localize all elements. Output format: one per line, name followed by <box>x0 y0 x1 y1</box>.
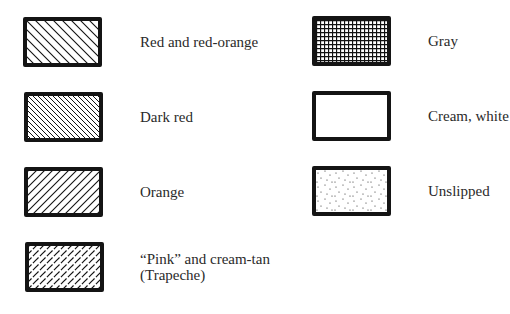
blank-swatch-icon <box>312 91 391 141</box>
legend-label: “Pink” and cream-tan (Trapeche) <box>140 251 270 283</box>
legend-item-orange: Orange <box>24 167 184 217</box>
legend-label: Cream, white <box>428 108 509 124</box>
legend-item-gray: Gray <box>312 16 458 66</box>
stipple-swatch-icon <box>312 166 391 216</box>
dark-red-hatch-swatch-icon <box>24 92 103 142</box>
legend-item-unslipped: Unslipped <box>312 166 490 216</box>
legend-item-dark-red: Dark red <box>24 92 193 142</box>
pink-dashed-hatch-swatch-icon <box>25 242 104 292</box>
red-hatch-swatch-icon <box>23 17 102 67</box>
legend-item-pink: “Pink” and cream-tan (Trapeche) <box>25 242 270 292</box>
legend-label: Red and red-orange <box>140 34 258 50</box>
legend-label: Unslipped <box>428 183 490 199</box>
legend-label-line2: (Trapeche) <box>140 267 270 283</box>
orange-hatch-swatch-icon <box>24 167 103 217</box>
legend-label: Orange <box>140 184 184 200</box>
legend-item-cream: Cream, white <box>312 91 509 141</box>
legend-label: Dark red <box>140 109 193 125</box>
legend-item-red: Red and red-orange <box>23 17 258 67</box>
gray-grid-swatch-icon <box>312 16 391 66</box>
legend-label-line1: “Pink” and cream-tan <box>140 251 270 267</box>
legend-label: Gray <box>428 33 458 49</box>
